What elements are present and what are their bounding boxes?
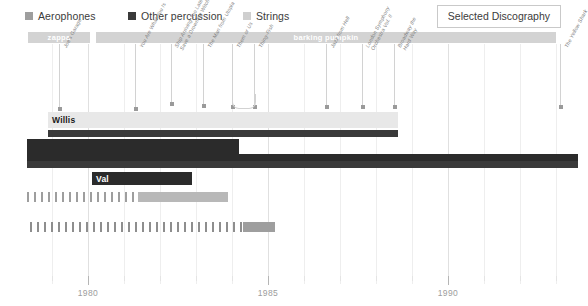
album-stem	[326, 44, 327, 107]
album-stem	[362, 44, 363, 107]
axis-minor-tick	[160, 276, 161, 281]
record-label-bar: barking pumpkin	[96, 32, 556, 43]
axis-minor-tick	[340, 276, 341, 281]
timeline-bar[interactable]	[48, 130, 398, 137]
legend-item-other-percussion[interactable]: Other percussion	[128, 10, 223, 22]
selected-discography-button[interactable]: Selected Discography	[437, 5, 561, 28]
axis-minor-tick	[412, 276, 413, 281]
album-dot-icon	[559, 105, 563, 109]
axis-minor-tick	[376, 276, 377, 281]
timeline-bar[interactable]: Val	[92, 172, 192, 185]
axis-minor-tick	[556, 276, 557, 281]
timeline-bar[interactable]	[27, 161, 578, 168]
album-dot-icon	[134, 107, 138, 111]
legend-swatch-icon	[128, 12, 136, 20]
axis-minor-tick	[520, 276, 521, 281]
album-dot-icon	[202, 104, 206, 108]
album-stem	[171, 44, 172, 104]
axis-tick	[268, 276, 269, 285]
axis-minor-tick	[196, 276, 197, 281]
album-dot-icon	[58, 107, 62, 111]
timeline-dashed-bar[interactable]	[30, 222, 243, 232]
legend-label: Aerophones	[38, 10, 96, 22]
legend-label: Strings	[256, 10, 289, 22]
album-dot-icon	[361, 105, 365, 109]
axis-minor-tick	[232, 276, 233, 281]
legend-swatch-icon	[25, 12, 33, 20]
timeline-bar[interactable]	[27, 139, 239, 154]
axis-minor-tick	[484, 276, 485, 281]
axis-tick-label: 1985	[258, 288, 279, 298]
plot-area: Joe's GarageYou Are What You IsShip Arri…	[0, 44, 569, 284]
timeline-bar[interactable]	[27, 154, 578, 161]
axis-tick	[448, 276, 449, 285]
album-stem	[394, 44, 395, 107]
album-group-bracket	[232, 94, 256, 109]
axis-tick	[88, 276, 89, 285]
album-stem	[135, 44, 136, 109]
timeline-dashed-bar[interactable]	[27, 192, 138, 202]
album-stem	[560, 44, 561, 107]
record-label-bar: zappa	[28, 32, 90, 43]
axis-minor-tick	[124, 276, 125, 281]
axis-minor-tick	[304, 276, 305, 281]
x-axis: 198019851990	[0, 276, 569, 306]
axis-tick-label: 1980	[78, 288, 99, 298]
timeline-bar-label: Val	[92, 174, 109, 184]
album-dot-icon	[325, 105, 329, 109]
axis-minor-tick	[52, 276, 53, 281]
album-stem	[59, 44, 60, 109]
legend-swatch-icon	[243, 12, 251, 20]
timeline-bar[interactable]	[243, 222, 275, 232]
album-dot-icon	[170, 102, 174, 106]
album-stem	[203, 44, 204, 106]
axis-tick-label: 1990	[438, 288, 459, 298]
timeline-bar-label: Willis	[48, 115, 75, 125]
album-dot-icon	[393, 105, 397, 109]
timeline-bar[interactable]	[138, 192, 228, 202]
timeline-bar[interactable]: Willis	[48, 112, 398, 128]
legend-item-aerophones[interactable]: Aerophones	[25, 10, 96, 22]
